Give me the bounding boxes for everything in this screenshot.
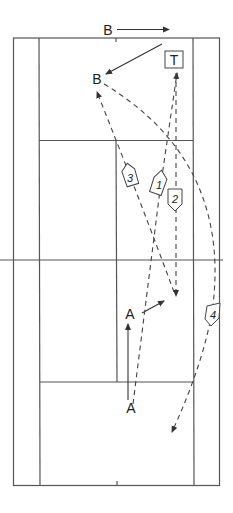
svg-text:1: 1 [156, 179, 162, 191]
shot-tag-1: 1 [149, 169, 168, 196]
center-line [116, 141, 117, 383]
player-b: B [92, 71, 101, 87]
shot-path-4 [104, 84, 215, 432]
shot-tag-4: 4 [205, 303, 220, 326]
svg-text:2: 2 [171, 193, 178, 205]
b-movement-arrow [106, 44, 162, 74]
right-singles-sideline [193, 38, 194, 485]
svg-text:3: 3 [127, 172, 134, 184]
target-t-label: T [170, 52, 179, 68]
movement-arrows [106, 30, 169, 401]
badminton-court-diagram: 1 2 3 4 T B B A A [0, 0, 233, 513]
shot-paths [97, 73, 215, 432]
shot-tag-2: 2 [168, 189, 182, 211]
left-singles-sideline [39, 38, 40, 486]
court [0, 38, 223, 486]
player-a-mid: A [125, 306, 135, 322]
player-b-top: B [103, 22, 112, 38]
shot-tag-3: 3 [120, 162, 138, 187]
svg-text:4: 4 [210, 309, 216, 321]
player-a-bottom: A [126, 400, 136, 416]
